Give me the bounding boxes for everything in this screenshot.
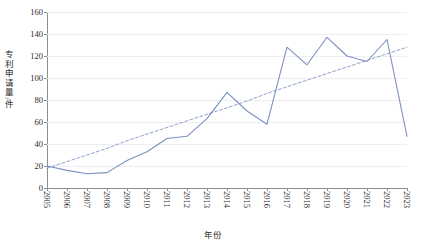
- x-tick-label: 2016: [262, 191, 272, 208]
- x-tick-label: 2010: [142, 191, 152, 208]
- x-tick-label: 2018: [302, 191, 312, 208]
- y-tick-label: 40: [35, 139, 44, 149]
- x-axis-title: 年份: [0, 228, 425, 240]
- x-tick-label: 2017: [282, 191, 292, 208]
- x-tick-label: 2009: [122, 191, 132, 208]
- x-tick-label: 2012: [182, 191, 192, 208]
- y-axis-tick-labels: 020406080100120140160: [0, 12, 43, 188]
- plot-area: [47, 12, 407, 188]
- data-series-svg: [47, 12, 407, 188]
- y-tick-label: 80: [35, 95, 44, 105]
- x-tick-label: 2023: [402, 191, 412, 208]
- x-tick-label: 2006: [62, 191, 72, 208]
- y-tick-label: 160: [30, 7, 43, 17]
- series-line-path: [47, 37, 407, 173]
- x-tick-label: 2020: [342, 191, 352, 208]
- y-tick-label: 60: [35, 117, 44, 127]
- x-tick-label: 2014: [222, 191, 232, 208]
- x-tick-label: 2005: [42, 191, 52, 208]
- x-tick-label: 2013: [202, 191, 212, 208]
- x-tick-label: 2019: [322, 191, 332, 208]
- x-tick-label: 2007: [82, 191, 92, 208]
- x-tick-label: 2015: [242, 191, 252, 208]
- x-tick-label: 2021: [362, 191, 372, 208]
- y-tick-label: 20: [35, 161, 44, 171]
- y-tick-label: 100: [30, 73, 43, 83]
- y-tick-label: 140: [30, 29, 43, 39]
- x-tick-label: 2022: [382, 191, 392, 208]
- trendline-path: [47, 47, 407, 168]
- y-tick-label: 120: [30, 51, 43, 61]
- line-chart: 专利申请量/件 020406080100120140160 2005200620…: [0, 0, 425, 249]
- x-tick-label: 2008: [102, 191, 112, 208]
- x-tick-label: 2011: [162, 191, 172, 208]
